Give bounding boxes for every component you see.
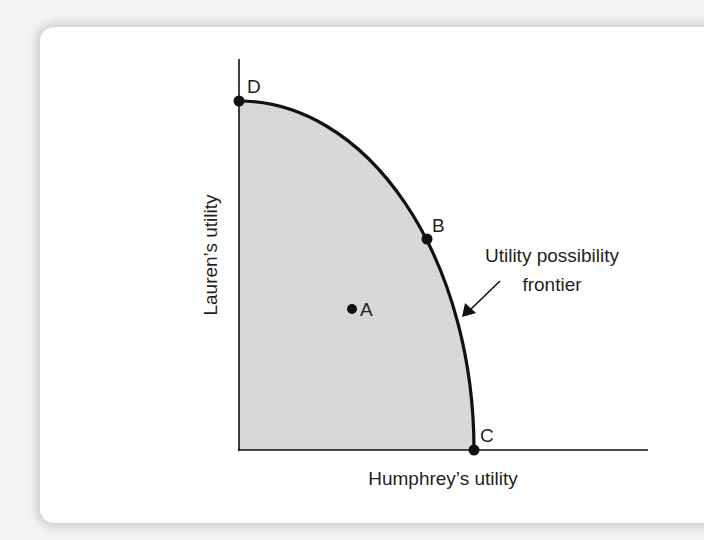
point-a-marker xyxy=(347,304,357,314)
figure-stage: D B A C Utility possibility frontier Hum… xyxy=(0,0,704,540)
point-d-label: D xyxy=(247,76,261,97)
point-b-marker xyxy=(422,234,433,245)
point-d-marker xyxy=(234,96,245,107)
frontier-annotation-line1: Utility possibility xyxy=(485,245,620,266)
y-axis-title: Lauren’s utility xyxy=(200,194,221,316)
x-axis-title: Humphrey’s utility xyxy=(368,468,518,489)
feasible-region xyxy=(239,101,474,450)
frontier-annotation-line2: frontier xyxy=(522,274,582,295)
utility-possibility-chart: D B A C Utility possibility frontier Hum… xyxy=(0,0,704,540)
annotation-arrow-icon xyxy=(462,281,500,317)
point-b-label: B xyxy=(432,215,445,236)
point-c-label: C xyxy=(480,425,494,446)
point-c-marker xyxy=(469,445,480,456)
point-a-label: A xyxy=(360,299,373,320)
